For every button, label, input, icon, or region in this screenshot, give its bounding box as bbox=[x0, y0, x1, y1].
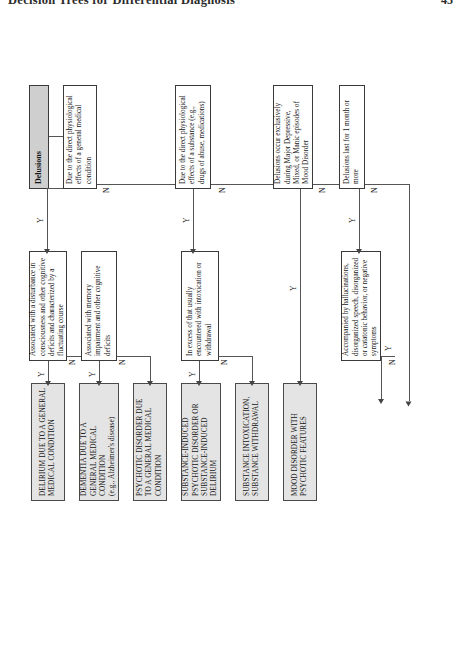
connector-c1b-no-to-o3 bbox=[150, 356, 151, 383]
criterion-hallucinations-disorganized-label: Accompanied by hallucinations, disorgani… bbox=[342, 256, 379, 356]
criterion-substance: Due to the direct physiological effects … bbox=[175, 85, 211, 189]
outcome-substance-intoxication-withdrawal: SUBSTANCE INTOXICATION, SUBSTANCE WITHDR… bbox=[235, 383, 269, 501]
decision-tree-figure: DELIRIUM DUE TO A GENERAL MEDICAL CONDIT… bbox=[23, 11, 453, 651]
outcome-delirium-gmc-label: DELIRIUM DUE TO A GENERAL MEDICAL CONDIT… bbox=[39, 388, 58, 496]
running-head-title: Decision Trees for Differential Diagnosi… bbox=[8, 0, 235, 8]
branch-label-c2-yes: Y bbox=[183, 218, 191, 223]
branch-label-c4a-no: N bbox=[389, 360, 397, 365]
outcome-dementia-gmc: DEMENTIA DUE TO A GENERAL MEDICAL CONDIT… bbox=[79, 383, 119, 501]
branch-label-c2a-no: N bbox=[221, 360, 229, 365]
arrow-c4a-yes-out bbox=[378, 399, 384, 404]
arrow-c4-no-out bbox=[406, 402, 412, 407]
connector-c4a-yes-out bbox=[381, 356, 382, 401]
connector-c1b-to-o2 bbox=[99, 361, 100, 383]
arrow-c1a-to-o1 bbox=[45, 381, 51, 386]
arrow-c4-to-c4a bbox=[356, 249, 362, 254]
arrow-c1b-no-to-o3 bbox=[147, 381, 153, 386]
branch-label-c1-no: N bbox=[103, 188, 111, 193]
start-node-label: Delusions bbox=[34, 90, 44, 184]
criterion-mood-episode: Delusions occur exclusively during Major… bbox=[273, 85, 313, 189]
connector-c2a-no-to-o5 bbox=[252, 356, 253, 383]
outcome-mood-disorder-psychotic-label: MOOD DISORDER WITH PSYCHOTIC FEATURES bbox=[291, 388, 310, 496]
branch-label-c1a-no: N bbox=[69, 360, 77, 365]
outcome-psychotic-disorder-gmc-label: PSYCHOTIC DISORDER DUE TO A GENERAL MEDI… bbox=[136, 388, 164, 496]
arrow-c1b-to-o2 bbox=[96, 381, 102, 386]
branch-label-c4-no: N bbox=[371, 188, 379, 193]
criterion-duration-one-month: Delusions last for 1 month or more bbox=[339, 85, 365, 189]
outcome-dementia-gmc-label: DEMENTIA DUE TO A GENERAL MEDICAL CONDIT… bbox=[80, 388, 108, 496]
start-node-delusions: Delusions bbox=[29, 85, 49, 189]
criterion-memory-impairment-label: Associated with memory impairment and ot… bbox=[85, 256, 113, 356]
page-number: 45 bbox=[441, 0, 453, 8]
criterion-hallucinations-disorganized: Accompanied by hallucinations, disorgani… bbox=[341, 251, 381, 361]
criterion-duration-one-month-label: Delusions last for 1 month or more bbox=[343, 90, 362, 184]
connector-c4-to-c4a bbox=[359, 189, 360, 251]
connector-c2a-no-down bbox=[219, 356, 252, 357]
connector-c2-to-c2a bbox=[193, 189, 194, 251]
criterion-memory-impairment: Associated with memory impairment and ot… bbox=[81, 251, 117, 361]
outcome-substance-intoxication-withdrawal-label: SUBSTANCE INTOXICATION, SUBSTANCE WITHDR… bbox=[243, 388, 262, 496]
connector-c4-no-down bbox=[365, 184, 409, 185]
arrow-c1-to-c1a bbox=[44, 249, 50, 254]
connector-c2a-to-o4 bbox=[199, 361, 200, 383]
criterion-excess-intoxication: In excess of that usually encountered wi… bbox=[181, 251, 219, 361]
outcome-psychotic-disorder-gmc: PSYCHOTIC DISORDER DUE TO A GENERAL MEDI… bbox=[133, 383, 167, 501]
criterion-substance-label: Due to the direct physiological effects … bbox=[179, 90, 207, 184]
branch-label-c3-no: N bbox=[319, 188, 327, 193]
connector-c3-to-o6 bbox=[300, 189, 301, 383]
criterion-general-medical-condition: Due to the direct physiological effects … bbox=[63, 85, 97, 189]
branch-label-c2a-yes: Y bbox=[189, 372, 197, 377]
connector-c1-yes-riser bbox=[47, 188, 63, 189]
outcome-substance-induced-label: SUBSTANCE-INDUCED PSYCHOTIC DISORDER or … bbox=[182, 388, 219, 496]
branch-label-c4a-yes: Y bbox=[385, 346, 393, 351]
criterion-excess-intoxication-label: In excess of that usually encountered wi… bbox=[186, 256, 214, 356]
connector-c1-to-c2 bbox=[97, 184, 175, 185]
branch-label-c1b-yes: Y bbox=[89, 372, 97, 377]
connector-start-to-c1 bbox=[49, 136, 63, 137]
branch-label-c1-yes: Y bbox=[37, 218, 45, 223]
arrow-c2a-no-to-o5 bbox=[249, 381, 255, 386]
branch-label-c2-no: N bbox=[219, 188, 227, 193]
arrow-c3-to-o6 bbox=[297, 381, 303, 386]
criterion-mood-episode-label: Delusions occur exclusively during Major… bbox=[274, 90, 311, 184]
arrow-c2a-to-o4 bbox=[196, 381, 202, 386]
arrow-c2-to-c2a bbox=[190, 249, 196, 254]
connector-c4-no-out bbox=[409, 184, 410, 401]
connector-c4a-no-down bbox=[381, 356, 395, 357]
connector-c2-to-c3 bbox=[211, 184, 273, 185]
outcome-dementia-gmc-sublabel: (e.g., Alzheimer's disease) bbox=[108, 388, 117, 496]
outcome-substance-induced: SUBSTANCE-INDUCED PSYCHOTIC DISORDER or … bbox=[181, 383, 221, 501]
connector-c1a-to-o1 bbox=[48, 361, 49, 383]
connector-c1b-no-down bbox=[117, 356, 150, 357]
connector-c3-to-c4 bbox=[313, 184, 339, 185]
criterion-general-medical-condition-label: Due to the direct physiological effects … bbox=[66, 90, 94, 184]
connector-c1-to-c1a bbox=[47, 189, 48, 251]
branch-label-c1b-no: N bbox=[119, 360, 127, 365]
outcome-mood-disorder-psychotic: MOOD DISORDER WITH PSYCHOTIC FEATURES bbox=[283, 383, 317, 501]
branch-label-c1a-yes: Y bbox=[38, 372, 46, 377]
connector-c1a-to-c1b bbox=[67, 356, 81, 357]
criterion-disturbance-consciousness: Associated with a disturbance in conscio… bbox=[29, 251, 67, 361]
branch-label-c4-yes: Y bbox=[349, 218, 357, 223]
outcome-delirium-gmc: DELIRIUM DUE TO A GENERAL MEDICAL CONDIT… bbox=[31, 383, 65, 501]
branch-label-c3-yes: Y bbox=[290, 286, 298, 291]
criterion-disturbance-consciousness-label: Associated with a disturbance in conscio… bbox=[29, 256, 66, 356]
